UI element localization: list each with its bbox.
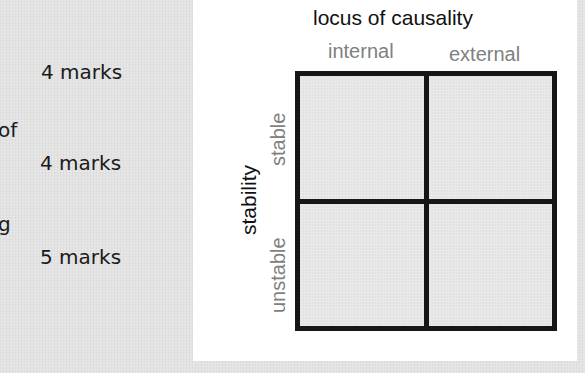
column-label-external: external	[449, 43, 520, 66]
row-label-stable: stable	[267, 113, 290, 166]
cell-stable-external	[429, 76, 553, 199]
row-label-unstable: unstable	[267, 237, 290, 313]
question-text-fragment: g	[0, 212, 11, 236]
column-label-internal: internal	[328, 40, 394, 63]
two-by-two-grid	[295, 71, 557, 331]
attribution-diagram-panel: locus of causality internal external sta…	[193, 0, 577, 361]
cell-unstable-external	[429, 204, 553, 327]
marks-label: 4 marks	[41, 60, 122, 84]
cell-stable-internal	[300, 76, 424, 199]
axis-label-stability: stability	[237, 165, 261, 235]
question-text-fragment: of	[0, 118, 17, 142]
marks-label: 5 marks	[40, 245, 121, 269]
cell-unstable-internal	[300, 204, 424, 327]
diagram-title: locus of causality	[313, 6, 473, 30]
marks-label: 4 marks	[40, 151, 121, 175]
